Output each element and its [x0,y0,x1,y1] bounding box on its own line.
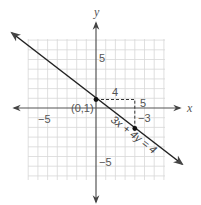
x-axis-label: x [186,101,193,115]
equation-label: 3x + 4y = 4 [109,113,159,156]
run-label-right: 5 [140,97,146,109]
rise-label: −3 [138,112,151,124]
point-label: (0,1) [71,102,94,114]
x-tick-neg5: −5 [38,113,51,125]
y-axis-label: y [93,5,100,19]
run-label: 4 [112,86,118,98]
y-tick-pos5: 5 [99,52,105,64]
point-y-intercept [94,97,99,102]
y-tick-neg5: −5 [99,156,112,168]
coordinate-graph: x y −5 5 −5 4 5 −3 (0,1) 3x + 4y = 4 [0,0,201,205]
